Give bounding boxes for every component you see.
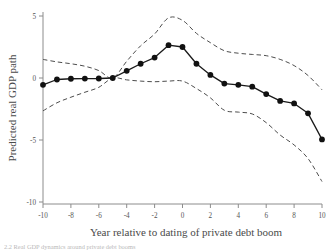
data-point-marker [319, 136, 325, 142]
x-tick-label: 4 [237, 212, 241, 220]
x-tick-label: -2 [152, 212, 158, 220]
data-point-marker [124, 68, 130, 74]
data-point-marker [68, 76, 74, 82]
figure-container: 50-5-10 -10-8-6-4-20246810 Predicted rea… [0, 0, 333, 250]
data-point-marker [221, 81, 227, 87]
y-axis-label: Predicted real GDP path [6, 54, 18, 161]
data-point-marker [194, 61, 200, 67]
y-tick-label: 5 [32, 13, 36, 21]
figure-caption: 2.2 Real GDP dynamics around private deb… [4, 243, 330, 250]
data-point-marker [110, 75, 116, 81]
data-point-marker [305, 110, 311, 116]
x-tick-label: -4 [124, 212, 130, 220]
y-tick-label: -10 [26, 199, 36, 207]
data-point-marker [249, 84, 255, 90]
x-tick-label: 6 [264, 212, 268, 220]
y-tick-label: -5 [30, 137, 36, 145]
lower-confidence-band [43, 78, 322, 182]
y-axis-ticks: 50-5-10 [26, 13, 43, 207]
data-point-marker [235, 82, 241, 88]
x-axis-label: Year relative to dating of private debt … [90, 226, 283, 238]
data-point-marker [54, 77, 60, 83]
data-point-marker [152, 55, 158, 61]
data-point-marker [208, 72, 214, 78]
data-point-marker [138, 61, 144, 67]
x-tick-label: -10 [38, 212, 48, 220]
data-point-marker [96, 76, 102, 82]
x-tick-label: 0 [181, 212, 185, 220]
x-tick-label: 10 [318, 212, 326, 220]
gdp-path-chart: 50-5-10 -10-8-6-4-20246810 Predicted rea… [0, 0, 333, 250]
x-tick-label: 8 [292, 212, 296, 220]
y-tick-label: 0 [32, 75, 36, 83]
data-point-marker [291, 101, 297, 107]
data-point-markers [40, 42, 325, 142]
data-point-marker [40, 82, 46, 88]
data-point-marker [82, 76, 88, 82]
x-tick-label: -8 [68, 212, 74, 220]
x-tick-label: -6 [96, 212, 102, 220]
data-point-marker [277, 98, 283, 104]
x-tick-label: 2 [209, 212, 213, 220]
data-point-marker [166, 42, 172, 48]
data-point-marker [180, 44, 186, 50]
data-point-marker [263, 91, 269, 97]
x-axis-ticks: -10-8-6-4-20246810 [38, 204, 326, 220]
